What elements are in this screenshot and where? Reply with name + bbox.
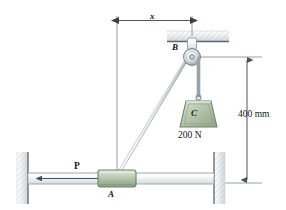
weight-block-c (180, 101, 217, 127)
right-wall-support (214, 152, 225, 204)
cable-b-to-c (196, 60, 201, 100)
dimension-400mm-label: 400 mm (238, 110, 269, 120)
weight-value-label: 200 N (178, 131, 202, 141)
block-c-label: C (191, 109, 197, 118)
ceiling-support (167, 31, 229, 42)
force-p-label: P (74, 162, 80, 172)
dimension-x-label: x (150, 12, 155, 21)
cable-a-to-b (117, 57, 188, 175)
figure-drawing (0, 0, 286, 210)
mechanics-figure: x B C 200 N 400 mm P A (0, 0, 286, 210)
left-wall-support (17, 152, 28, 204)
point-a-label: A (108, 190, 114, 199)
collar-a (98, 170, 136, 187)
point-b-label: B (172, 43, 178, 52)
pulley-hub (190, 55, 195, 60)
